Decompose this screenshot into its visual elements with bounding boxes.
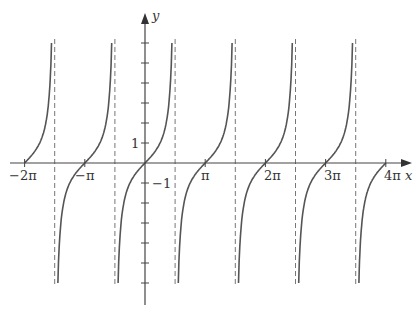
tick-label-4pi: 4π — [384, 168, 401, 183]
x-axis-arrow-icon — [401, 159, 412, 167]
tick-label-1: 1 — [131, 136, 139, 151]
tick-label-3pi: 3π — [324, 168, 341, 183]
y-axis-label: y — [151, 8, 160, 23]
tick-label-2pi: 2π — [264, 168, 281, 183]
tick-label-pi: π — [201, 168, 210, 183]
x-axis-label: x — [405, 168, 413, 183]
tick-label-neg-pi: −π — [75, 168, 95, 183]
y-axis-arrow-icon — [141, 13, 149, 24]
tick-label-neg-2pi: −2π — [9, 168, 37, 183]
tan-branch — [359, 163, 386, 283]
tan-branch — [25, 43, 52, 163]
tangent-plot: x y −2π −π π 2π 3π 4π 1 −1 — [0, 0, 420, 314]
tick-label-neg-1: −1 — [152, 176, 171, 191]
